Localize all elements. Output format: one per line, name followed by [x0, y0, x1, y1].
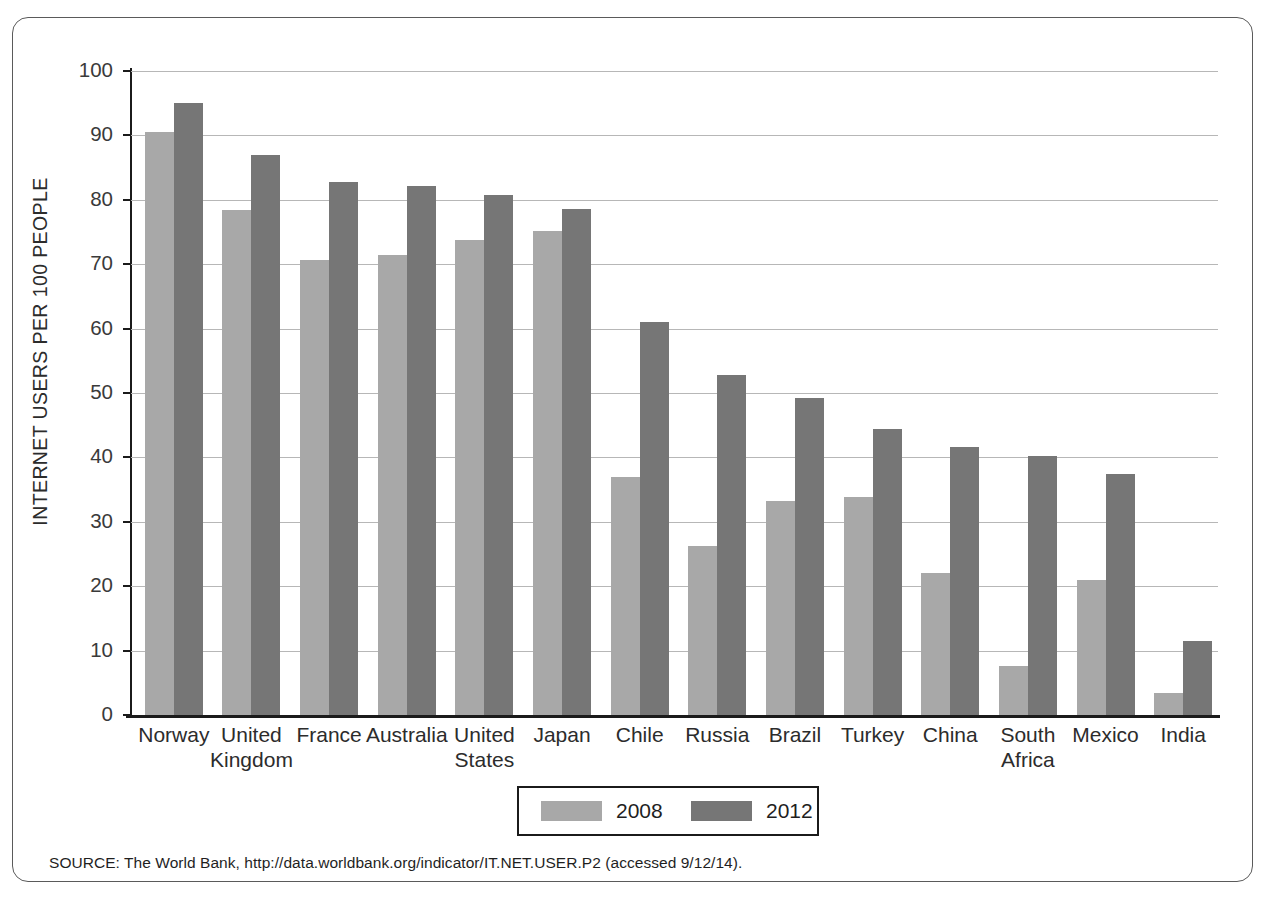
bar-2012-China [950, 447, 979, 715]
bar-2008-United-Kingdom [222, 210, 251, 715]
bar-2012-Japan [562, 209, 591, 715]
gridline-100 [131, 71, 1218, 72]
bar-2008-Norway [145, 132, 174, 715]
bar-2012-Australia [407, 186, 436, 715]
bar-2008-Japan [533, 231, 562, 715]
legend-label-2012: 2012 [766, 799, 813, 823]
gridline-90 [131, 135, 1218, 136]
figure-frame: INTERNET USERS PER 100 PEOPLE 0102030405… [12, 17, 1253, 882]
bar-2012-Turkey [873, 429, 902, 715]
legend-label-2008: 2008 [616, 799, 663, 823]
bar-2012-South-Africa [1028, 456, 1057, 715]
gridline-50 [131, 393, 1218, 394]
bar-2008-Russia [688, 546, 717, 715]
y-tick-label-60: 60 [65, 316, 113, 340]
y-tick-label-20: 20 [65, 573, 113, 597]
x-axis-line [126, 715, 1220, 718]
y-tick-label-80: 80 [65, 187, 113, 211]
plot-area [131, 71, 1218, 715]
bar-2012-Norway [174, 103, 203, 715]
bar-2008-United-States [455, 240, 484, 715]
source-note: SOURCE: The World Bank, http://data.worl… [49, 854, 742, 872]
bar-2012-France [329, 182, 358, 715]
bar-2012-India [1183, 641, 1212, 715]
bar-2012-Russia [717, 375, 746, 715]
bar-2008-Chile [611, 477, 640, 715]
gridline-80 [131, 200, 1218, 201]
x-label-India: India [1113, 722, 1253, 747]
bar-2008-South-Africa [999, 666, 1028, 715]
legend-item-2008: 2008 [541, 799, 663, 823]
y-tick-label-70: 70 [65, 251, 113, 275]
y-tick-label-30: 30 [65, 509, 113, 533]
figure-root: INTERNET USERS PER 100 PEOPLE 0102030405… [0, 0, 1267, 903]
y-tick-label-90: 90 [65, 122, 113, 146]
bar-2008-India [1154, 693, 1183, 715]
bar-2008-China [921, 573, 950, 715]
bar-2012-United-Kingdom [251, 155, 280, 715]
gridline-70 [131, 264, 1218, 265]
bar-2008-Brazil [766, 501, 795, 715]
y-tick-label-50: 50 [65, 380, 113, 404]
bar-2008-Mexico [1077, 580, 1106, 715]
legend-swatch-2012 [691, 801, 752, 821]
bar-2012-Brazil [795, 398, 824, 715]
bar-2008-France [300, 260, 329, 715]
bar-2008-Australia [378, 255, 407, 715]
bar-2012-United-States [484, 195, 513, 715]
legend: 2008 2012 [517, 786, 819, 836]
y-tick-label-10: 10 [65, 638, 113, 662]
legend-item-2012: 2012 [691, 799, 813, 823]
bar-2008-Turkey [844, 497, 873, 715]
legend-swatch-2008 [541, 801, 602, 821]
bar-2012-Chile [640, 322, 669, 715]
y-tick-label-100: 100 [65, 58, 113, 82]
y-tick-label-40: 40 [65, 444, 113, 468]
bar-2012-Mexico [1106, 474, 1135, 716]
gridline-60 [131, 329, 1218, 330]
